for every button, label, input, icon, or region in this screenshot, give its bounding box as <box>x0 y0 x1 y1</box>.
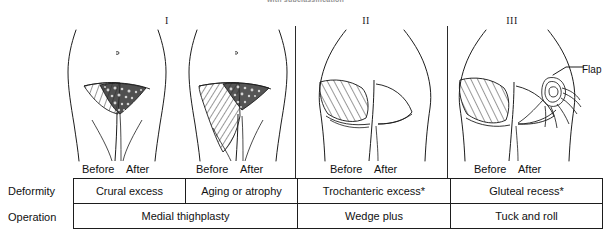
illustration-aging-atrophy <box>183 28 293 163</box>
cell-deformity-crural: Crural excess <box>74 179 186 204</box>
before-label: Before <box>330 163 374 175</box>
cell-operation-tuck-and-roll: Tuck and roll <box>451 204 603 229</box>
cell-deformity-aging: Aging or atrophy <box>186 179 298 204</box>
row-label-operation: Operation <box>8 211 56 223</box>
after-label: After <box>518 163 558 175</box>
illustration-gluteal-recess <box>452 28 592 163</box>
cell-operation-medial-thighplasty: Medial thighplasty <box>74 204 298 229</box>
flap-leader-line <box>552 62 584 78</box>
after-label: After <box>374 163 414 175</box>
column-numeral-1: I <box>155 15 179 26</box>
before-after-labels-2: BeforeAfter <box>196 163 280 175</box>
before-after-labels-4: BeforeAfter <box>474 163 558 175</box>
cell-operation-wedge-plus: Wedge plus <box>298 204 451 229</box>
column-numeral-3: III <box>500 15 524 26</box>
row-label-deformity: Deformity <box>8 185 55 197</box>
illustration-trochanteric-excess <box>312 28 440 163</box>
cell-deformity-gluteal: Gluteal recess* <box>451 179 603 204</box>
before-after-labels-1: BeforeAfter <box>82 163 166 175</box>
panel-divider-1 <box>295 26 296 181</box>
classification-table: Crural excess Aging or atrophy Trochante… <box>73 178 603 229</box>
table-row-operation: Medial thighplasty Wedge plus Tuck and r… <box>74 204 603 229</box>
flap-label: Flap <box>582 64 601 75</box>
before-label: Before <box>196 163 240 175</box>
top-caption: with subclassification <box>0 0 611 3</box>
before-label: Before <box>82 163 126 175</box>
table-row-deformity: Crural excess Aging or atrophy Trochante… <box>74 179 603 204</box>
column-numeral-2: II <box>354 15 378 26</box>
classification-figure: with subclassification I II III <box>0 0 611 232</box>
after-label: After <box>240 163 280 175</box>
before-after-labels-3: BeforeAfter <box>330 163 414 175</box>
panel-divider-2 <box>447 26 448 181</box>
cell-deformity-trochanteric: Trochanteric excess* <box>298 179 451 204</box>
before-label: Before <box>474 163 518 175</box>
after-label: After <box>126 163 166 175</box>
illustration-crural-excess <box>62 28 172 163</box>
